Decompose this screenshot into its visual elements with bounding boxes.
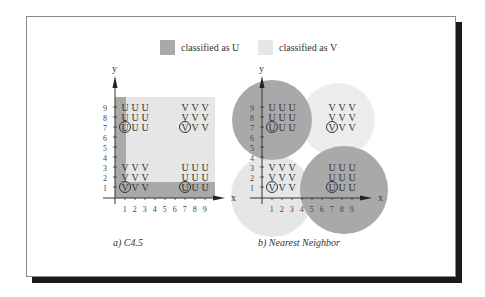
y-tick-label: 8 [103, 114, 107, 123]
x-tick-label: 3 [143, 205, 147, 214]
x-tick-label: 2 [280, 205, 284, 214]
figure-canvas: classified as U classified as V xy123456… [0, 0, 485, 297]
caption-nearest-neighbor: b) Nearest Neighbor [258, 237, 340, 249]
x-tick-label: 3 [290, 205, 294, 214]
y-axis-arrow-icon [113, 76, 118, 88]
x-tick-label: 8 [193, 205, 197, 214]
y-tick-label: 8 [250, 114, 254, 123]
y-tick-label: 6 [250, 134, 254, 143]
x-tick-label: 7 [330, 205, 334, 214]
data-point-v: V [289, 182, 297, 193]
x-axis-label: x [231, 192, 236, 203]
x-tick-label: 5 [163, 205, 167, 214]
x-tick-label: 4 [300, 205, 304, 214]
y-tick-label: 2 [250, 174, 254, 183]
y-tick-label: 1 [103, 184, 107, 193]
y-tick-label: 4 [250, 154, 254, 163]
y-tick-label: 3 [103, 164, 107, 173]
y-tick-label: 5 [250, 144, 254, 153]
data-point-u: U [349, 182, 357, 193]
y-axis-label: y [259, 63, 264, 74]
y-tick-label: 3 [250, 164, 254, 173]
legend-label-v: classified as V [279, 42, 338, 53]
data-point-v: V [202, 122, 210, 133]
x-axis-label: x [378, 192, 383, 203]
x-tick-label: 9 [350, 205, 354, 214]
data-point-v: V [349, 122, 357, 133]
x-tick-label: 7 [183, 205, 187, 214]
y-tick-label: 6 [103, 134, 107, 143]
x-tick-label: 8 [340, 205, 344, 214]
y-tick-label: 1 [250, 184, 254, 193]
data-point-u: U [279, 122, 287, 133]
x-tick-label: 9 [203, 205, 207, 214]
data-point-u: U [202, 182, 210, 193]
data-point-u: U [132, 122, 140, 133]
legend-swatch-u [160, 40, 175, 55]
x-axis-arrow-icon [213, 196, 225, 201]
data-point-u: U [339, 182, 347, 193]
y-tick-label: 4 [103, 154, 107, 163]
panel-c45 [115, 97, 215, 198]
data-point-v: V [279, 182, 287, 193]
data-point-v: V [142, 182, 150, 193]
y-tick-label: 7 [103, 124, 107, 133]
x-tick-label: 1 [123, 205, 127, 214]
data-point-v: V [132, 182, 140, 193]
x-tick-label: 6 [173, 205, 177, 214]
y-axis-label: y [112, 63, 117, 74]
x-tick-label: 2 [133, 205, 137, 214]
data-point-u: U [192, 182, 200, 193]
y-tick-label: 9 [103, 104, 107, 113]
caption-c45: a) C4.5 [113, 237, 143, 249]
legend-swatch-v [258, 40, 273, 55]
data-point-v: V [192, 122, 200, 133]
legend-label-u: classified as U [181, 42, 240, 53]
data-point-v: V [339, 122, 347, 133]
y-tick-label: 5 [103, 144, 107, 153]
y-tick-label: 7 [250, 124, 254, 133]
x-tick-label: 4 [153, 205, 157, 214]
y-tick-label: 2 [103, 174, 107, 183]
x-tick-label: 1 [270, 205, 274, 214]
data-point-u: U [142, 122, 150, 133]
x-tick-label: 6 [320, 205, 324, 214]
legend: classified as U classified as V [160, 40, 338, 55]
x-tick-label: 5 [310, 205, 314, 214]
data-point-u: U [289, 122, 297, 133]
y-tick-label: 9 [250, 104, 254, 113]
